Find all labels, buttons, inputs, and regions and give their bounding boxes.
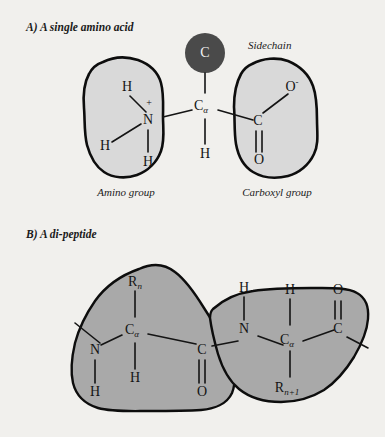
atom-carboxyl-o-double: O [254, 152, 264, 167]
atom-amino-n: N [143, 112, 153, 127]
atom-left-carbonyl-o: O [197, 384, 207, 399]
left-r-subscript: n [137, 281, 142, 291]
panel-b-heading: B) A di-peptide [25, 228, 96, 241]
carboxyl-group-caption: Carboxyl group [242, 186, 312, 198]
atom-amino-h-left: H [100, 138, 110, 153]
bond-calpha-n [163, 110, 192, 117]
carboxyl-o-charge: - [296, 77, 299, 87]
atom-carboxyl-c: C [253, 113, 262, 128]
atom-amino-h-top: H [122, 79, 132, 94]
left-alpha-symbol: C [125, 322, 134, 337]
amino-group-caption: Amino group [96, 186, 155, 198]
atom-left-n-h: H [90, 384, 100, 399]
carboxyl-o-symbol: O [285, 79, 295, 94]
right-alpha-symbol: C [280, 332, 289, 347]
amino-acid-figure: A) A single amino acid C Sidechain H H N… [0, 0, 385, 437]
atom-alpha-carbon: Cα [194, 98, 208, 115]
atom-alpha-h: H [200, 146, 210, 161]
atom-left-n: N [90, 342, 100, 357]
left-alpha-subscript: α [134, 329, 139, 339]
figure-page: A) A single amino acid C Sidechain H H N… [0, 0, 385, 437]
right-r-subscript: n+1 [284, 387, 299, 397]
atom-amino-h-bottom: H [143, 154, 153, 169]
right-alpha-subscript: α [289, 339, 294, 349]
atom-left-alpha-h: H [130, 370, 140, 385]
atom-right-alpha-h: H [285, 282, 295, 297]
atom-right-carbonyl-c: C [333, 321, 342, 336]
alpha-carbon-subscript: α [203, 105, 208, 115]
atom-amino-charge: + [146, 97, 152, 108]
sidechain-text-label: Sidechain [248, 39, 292, 51]
atom-right-carbonyl-o: O [333, 282, 343, 297]
alpha-carbon-symbol: C [194, 98, 203, 113]
atom-right-n: N [239, 321, 249, 336]
atom-left-carbonyl-c: C [197, 342, 206, 357]
panel-a-heading: A) A single amino acid [25, 21, 134, 34]
sidechain-r-label: C [200, 45, 209, 60]
atom-right-n-h: H [239, 280, 249, 295]
